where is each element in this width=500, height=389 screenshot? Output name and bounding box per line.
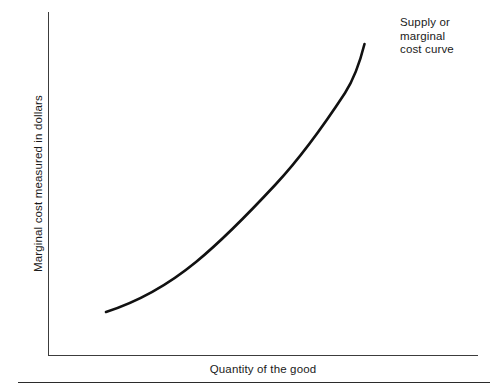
- annotation-line-2: marginal: [400, 30, 454, 44]
- supply-curve: [106, 44, 365, 312]
- x-axis-label: Quantity of the good: [48, 363, 478, 375]
- chart-plot-area: [0, 0, 500, 389]
- chart-figure: Marginal cost measured in dollars Quanti…: [0, 0, 500, 389]
- y-axis-label: Marginal cost measured in dollars: [32, 72, 44, 272]
- annotation-line-1: Supply or: [400, 16, 454, 30]
- supply-curve-annotation: Supply or marginal cost curve: [400, 16, 454, 57]
- annotation-line-3: cost curve: [400, 43, 454, 57]
